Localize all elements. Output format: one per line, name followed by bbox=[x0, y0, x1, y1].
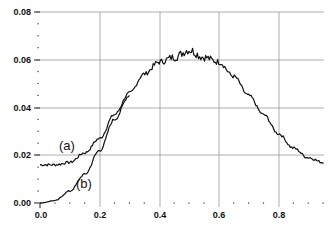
x-tick-labels: 0.0 0.2 0.4 0.6 0.8 bbox=[35, 210, 286, 220]
minor-tick-y bbox=[37, 95, 38, 96]
minor-tick-y bbox=[37, 23, 38, 24]
minor-tick-x bbox=[174, 202, 175, 203]
minor-tick-x bbox=[129, 202, 130, 203]
minor-tick-x bbox=[114, 202, 115, 203]
y-tick-label: 0.04 bbox=[13, 103, 31, 113]
minor-tick-y bbox=[37, 35, 38, 36]
x-tick-label: 0.0 bbox=[35, 210, 48, 220]
x-tick-label: 0.4 bbox=[154, 210, 167, 220]
y-tick-label: 0.02 bbox=[13, 150, 31, 160]
minor-tick-y bbox=[37, 71, 38, 72]
minor-tick-y bbox=[37, 143, 38, 144]
minor-tick-y bbox=[37, 83, 38, 84]
minor-tick-y bbox=[37, 119, 38, 120]
series-a-line bbox=[40, 48, 324, 165]
series-a-label: (a) bbox=[59, 138, 75, 153]
minor-tick-y bbox=[37, 190, 38, 191]
minor-tick-y bbox=[37, 131, 38, 132]
minor-tick-x bbox=[248, 202, 249, 203]
series-b-label: (b) bbox=[76, 176, 92, 191]
minor-tick-x bbox=[263, 202, 264, 203]
minor-tick-x bbox=[233, 202, 234, 203]
y-tick-label: 0.08 bbox=[13, 7, 31, 17]
x-tick-label: 0.2 bbox=[94, 210, 107, 220]
minor-tick-x bbox=[323, 202, 324, 203]
minor-tick-x bbox=[203, 202, 204, 203]
minor-tick-x bbox=[188, 202, 189, 203]
y-tick-label: 0.06 bbox=[13, 55, 31, 65]
minor-tick-y bbox=[37, 179, 38, 180]
x-tick-label: 0.6 bbox=[213, 210, 226, 220]
minor-tick-x bbox=[69, 202, 70, 203]
minor-tick-x bbox=[144, 202, 145, 203]
minor-tick-y bbox=[37, 47, 38, 48]
minor-tick-x bbox=[84, 202, 85, 203]
y-tick-label: 0.00 bbox=[13, 198, 31, 208]
line-chart: 0.00 0.02 0.04 0.06 0.08 0.0 0.2 0.4 0.6… bbox=[0, 0, 331, 227]
minor-tick-x bbox=[293, 202, 294, 203]
minor-tick-y bbox=[37, 167, 38, 168]
x-tick-label: 0.8 bbox=[273, 210, 286, 220]
minor-tick-x bbox=[308, 202, 309, 203]
minor-tick-x bbox=[54, 202, 55, 203]
y-tick-labels: 0.00 0.02 0.04 0.06 0.08 bbox=[13, 7, 31, 208]
